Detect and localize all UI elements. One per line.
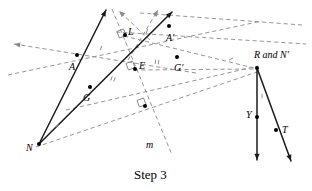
label-T: T [282, 125, 288, 135]
step-caption: Step 3 [134, 168, 167, 181]
point-Y [255, 115, 259, 119]
segment-R-to-T-down [257, 68, 291, 161]
point-G-prime [175, 55, 179, 59]
label-A: A [69, 62, 75, 72]
point-T [274, 128, 278, 132]
tick-L-to-Aprime [146, 29, 148, 33]
point-G [88, 85, 92, 89]
point-E [133, 67, 137, 71]
dashed-arrow-up-left-arrowhead [119, 11, 125, 17]
congruence-and-right-angle-marks [55, 29, 262, 127]
label-E: E [139, 61, 145, 71]
tick-angle-at-R [229, 58, 233, 60]
point-L [123, 33, 127, 37]
point-A [75, 53, 79, 57]
geometry-figure: ALA′EG′GNmR and N′YT Step 3 [0, 0, 312, 191]
dashed-arrow-up-right-1-arrowhead [153, 10, 158, 17]
point-R-N-prime [255, 66, 259, 70]
plotted-points [37, 24, 278, 146]
label-Y: Y [246, 110, 252, 120]
dashed-line-through-A-leftarrow-arrowhead-start [14, 42, 21, 47]
segment-R-to-T-down-arrowhead [286, 154, 291, 161]
dashed-construction-lines [8, 9, 306, 155]
diagram-canvas [0, 0, 312, 191]
label-m: m [146, 140, 153, 150]
ray-N-through-G [39, 12, 172, 144]
tick-G-to-E [111, 76, 113, 80]
dashed-line-m [112, 9, 172, 155]
ray-N-through-A [39, 10, 106, 144]
label-G: G [83, 93, 90, 103]
point-N [37, 142, 41, 146]
point-A-prime [167, 24, 171, 28]
label-A-prime: A′ [166, 33, 174, 43]
dashed-line-E-to-R [134, 69, 257, 70]
point-m-foot [143, 104, 147, 108]
segment-R-to-Y-down-arrowhead [254, 154, 259, 160]
label-N: N [26, 143, 33, 153]
tick-A-to-L [100, 46, 102, 50]
label-L: L [128, 27, 134, 37]
label-G-prime: G′ [174, 63, 183, 73]
dashed-line-through-A-leftarrow [14, 44, 196, 73]
label-R-and-N-prime: R and N′ [254, 50, 289, 60]
tick-G-to-E [114, 77, 116, 81]
dashed-line-top-right [116, 32, 306, 44]
